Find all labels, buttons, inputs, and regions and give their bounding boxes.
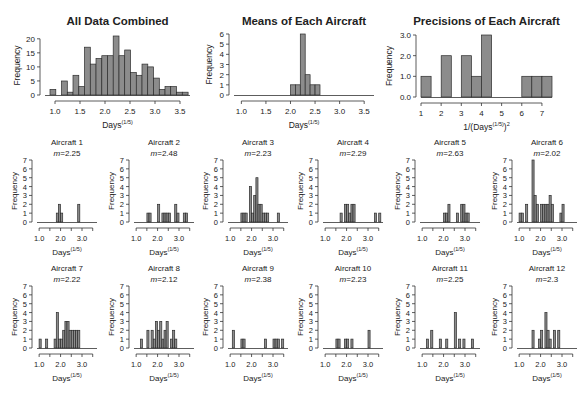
histogram-bar: [315, 85, 320, 95]
histogram-bar: [142, 64, 148, 95]
x-tick-label: 1.0: [514, 360, 524, 369]
mean-value: =2.3: [542, 275, 558, 284]
y-tick-label: 0: [503, 344, 507, 353]
x-axis-label-text: Days: [52, 374, 70, 383]
histogram-bar: [140, 339, 142, 348]
x-tick-label: 2.5: [124, 107, 136, 116]
mean-value: =2.23: [251, 149, 272, 158]
x-tick-label: 3.0: [149, 107, 161, 116]
y-axis: 0.01.02.03.0Frequency: [384, 31, 416, 102]
y-tick-label: 4: [406, 309, 410, 318]
histogram-bar: [69, 330, 71, 348]
histogram-bar: [300, 34, 305, 95]
x-tick-label: 1.0: [131, 234, 141, 243]
y-tick-label: 7: [406, 156, 410, 165]
x-tick-label: 3.0: [363, 360, 373, 369]
y-tick-label: 6: [503, 291, 507, 300]
x-tick-label: 3.0: [77, 360, 87, 369]
histogram-bar: [446, 213, 448, 222]
histogram-bar: [136, 75, 142, 95]
y-tick-label: 3: [503, 191, 507, 200]
y-tick-label: 1: [503, 335, 507, 344]
y-tick-label: 0: [309, 344, 313, 353]
bars: [147, 204, 188, 222]
aircraft-title: Aircraft 5: [434, 138, 467, 147]
aircraft-title: Aircraft 8: [148, 264, 181, 273]
aircraft-mean-label: m=2.12: [151, 275, 178, 284]
y-tick-label: 0: [220, 91, 225, 100]
y-tick-label: 2: [120, 200, 124, 209]
y-tick-label: 20: [26, 35, 35, 44]
y-tick-label: 4: [23, 309, 27, 318]
histogram-bar: [177, 213, 179, 222]
y-tick-label: 4: [120, 309, 124, 318]
x-axis: 1.02.03.0Days(1/5): [131, 228, 190, 257]
histogram-bar: [340, 213, 342, 222]
x-axis-label-text: Days: [102, 120, 121, 130]
x-tick-label: 2.0: [438, 234, 448, 243]
histogram-bar: [175, 339, 177, 348]
histogram-bar: [125, 50, 131, 95]
histogram-bar: [46, 339, 48, 348]
x-axis-label-superscript: (1/5): [70, 246, 81, 252]
aircraft-title: Aircraft 12: [529, 264, 566, 273]
y-tick-label: 3: [406, 317, 410, 326]
y-tick-label: 3: [309, 191, 313, 200]
x-axis-label: Days(1/5): [532, 372, 562, 383]
histogram-bar: [291, 85, 296, 95]
y-tick-label: 3: [220, 61, 225, 70]
histogram-bar: [254, 195, 256, 222]
y-tick-label: 6: [23, 291, 27, 300]
x-axis-label: Days(1/5): [289, 119, 320, 130]
histogram-bar: [344, 339, 346, 348]
histogram-bar: [448, 204, 450, 222]
y-tick-label: 1: [220, 81, 225, 90]
histogram-bar: [467, 213, 469, 222]
x-axis: 1.02.03.0Days(1/5): [514, 228, 573, 257]
y-tick-label: 0.0: [400, 93, 412, 102]
mean-value: =2.38: [251, 275, 272, 284]
histogram-bar: [158, 204, 160, 222]
mean-value: =2.63: [443, 149, 464, 158]
x-tick-label: 2.0: [152, 234, 162, 243]
histogram-bar: [54, 339, 56, 348]
histogram-bar: [165, 87, 171, 95]
aircraft-title: Aircraft 11: [432, 264, 468, 273]
x-tick-label: 3.0: [77, 234, 87, 243]
x-tick-label: 2.5: [309, 107, 321, 116]
mean-value: =2.22: [60, 275, 81, 284]
aircraft-mean-label: m=2.48: [151, 149, 178, 158]
y-tick-label: 1.0: [400, 72, 412, 81]
histogram-bar: [549, 195, 551, 222]
y-tick-label: 6: [220, 30, 225, 39]
x-tick-label: 5: [499, 109, 504, 118]
x-axis: 1.02.03.0Days(1/5): [34, 354, 93, 383]
histogram-bar: [171, 87, 177, 95]
y-axis-label: Frequency: [10, 298, 19, 336]
histogram-bar: [553, 330, 555, 348]
y-tick-label: 3: [23, 317, 27, 326]
y-tick-label: 1: [214, 335, 218, 344]
x-tick-label: 1.5: [74, 107, 86, 116]
histogram-bar: [245, 213, 247, 222]
panel-title: Precisions of Each Aircraft: [413, 15, 560, 27]
x-tick-label: 3.0: [174, 360, 184, 369]
y-tick-label: 7: [23, 156, 27, 165]
x-tick-label: 3.0: [334, 107, 346, 116]
y-tick-label: 6: [214, 165, 218, 174]
y-axis: 01234567Frequency: [296, 156, 318, 227]
histogram-bar: [310, 85, 315, 95]
x-axis: 1.02.03.0Days(1/5): [320, 354, 379, 383]
mean-value: =2.25: [443, 275, 464, 284]
y-tick-label: 5: [214, 174, 218, 183]
histogram-bar: [113, 36, 119, 95]
y-tick-label: 5: [214, 300, 218, 309]
y-tick-label: 3: [214, 317, 218, 326]
x-axis: 1.02.03.0Days(1/5): [417, 354, 476, 383]
y-tick-label: 6: [23, 165, 27, 174]
y-tick-label: 2: [23, 200, 27, 209]
x-tick-label: 2.0: [55, 234, 65, 243]
x-axis-label-superscript: (1/5): [167, 372, 178, 378]
histogram-bar: [96, 59, 102, 96]
histogram-bar: [368, 330, 370, 348]
